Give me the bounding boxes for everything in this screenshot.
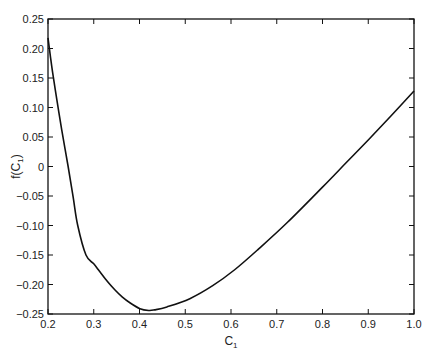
x-tick-label: 0.8 xyxy=(315,318,330,330)
data-line-f-c1 xyxy=(48,38,414,311)
x-tick-label: 0.6 xyxy=(223,318,238,330)
y-tick-label: 0.20 xyxy=(23,43,44,55)
y-axis-label: f(C1) xyxy=(9,154,25,178)
x-tick-label: 0.5 xyxy=(178,318,193,330)
y-tick-label: 0.25 xyxy=(23,13,44,25)
y-tick-label: 0 xyxy=(38,161,44,173)
y-tick-label: 0.05 xyxy=(23,131,44,143)
y-tick-label: 0.15 xyxy=(23,72,44,84)
y-tick-label: −0.05 xyxy=(16,190,44,202)
x-axis-ticks: 0.20.30.40.50.60.70.80.91.0 xyxy=(40,19,421,330)
line-chart: 0.20.30.40.50.60.70.80.91.0 0.250.200.15… xyxy=(0,0,435,361)
plot-frame xyxy=(48,19,414,314)
y-tick-label: −0.25 xyxy=(16,308,44,320)
x-tick-label: 0.7 xyxy=(269,318,284,330)
y-tick-label: −0.10 xyxy=(16,220,44,232)
x-tick-label: 0.4 xyxy=(132,318,147,330)
y-axis-ticks: 0.250.200.150.100.050−0.05−0.10−0.15−0.2… xyxy=(16,13,414,320)
y-tick-label: −0.15 xyxy=(16,249,44,261)
x-tick-label: 1.0 xyxy=(406,318,421,330)
x-axis-label: C1 xyxy=(224,334,238,350)
x-tick-label: 0.3 xyxy=(86,318,101,330)
x-tick-label: 0.9 xyxy=(361,318,376,330)
y-tick-label: −0.20 xyxy=(16,279,44,291)
y-tick-label: 0.10 xyxy=(23,102,44,114)
